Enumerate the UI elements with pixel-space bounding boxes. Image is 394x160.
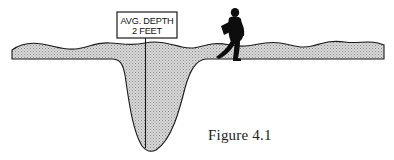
water-cross-section: [12, 41, 384, 151]
diagram-canvas: AVG. DEPTH 2 FEET: [0, 0, 394, 160]
depth-sign: AVG. DEPTH 2 FEET: [117, 12, 177, 38]
sign-line-1: AVG. DEPTH: [121, 16, 174, 26]
figure-caption: Figure 4.1: [208, 127, 272, 144]
sign-line-2: 2 FEET: [132, 26, 163, 36]
